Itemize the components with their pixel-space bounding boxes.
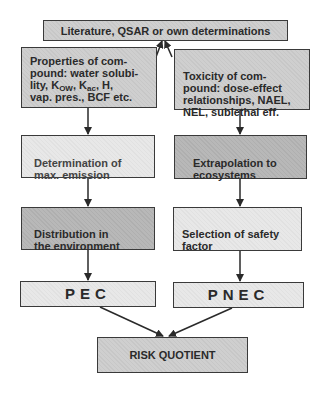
pnec-box: PNEC <box>173 282 304 308</box>
toxicity-box: Toxicity of com- pound: dose-effect rela… <box>174 49 310 110</box>
emission-label: Determination of max. emission <box>34 157 121 181</box>
distribution-box: Distribution in the environment <box>21 207 155 250</box>
distribution-label: Distribution in the environment <box>34 228 120 252</box>
risk-quotient-box: RISK QUOTIENT <box>97 337 248 373</box>
extrapolation-label: Extrapolation to ecosystems <box>193 157 277 181</box>
properties-box: Properties of com- pound: water solubi- … <box>21 47 157 108</box>
risk-quotient-label: RISK QUOTIENT <box>129 349 215 361</box>
pec-box: PEC <box>20 281 156 307</box>
safety-factor-label: Selection of safety factor <box>182 228 279 252</box>
toxicity-label: Toxicity of com- pound: dose-effect rela… <box>183 70 291 118</box>
source-label: Literature, QSAR or own determinations <box>61 25 271 37</box>
pec-label: PEC <box>65 288 111 300</box>
pnec-label: PNEC <box>208 289 270 301</box>
safety-factor-box: Selection of safety factor <box>173 207 302 251</box>
properties-label: Properties of com- pound: water solubi- … <box>30 55 150 103</box>
extrapolation-box: Extrapolation to ecosystems <box>174 135 307 179</box>
source-box: Literature, QSAR or own determinations <box>43 20 288 41</box>
emission-box: Determination of max. emission <box>21 135 155 178</box>
